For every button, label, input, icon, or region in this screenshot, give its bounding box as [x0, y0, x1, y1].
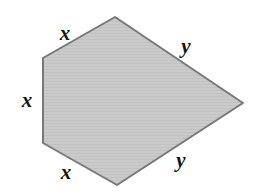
side-label-x-bottom-left: x [61, 162, 72, 183]
hexagon-shape [43, 17, 243, 185]
side-label-y-bottom-right: y [176, 150, 185, 171]
side-label-x-top-left: x [60, 23, 71, 44]
geometry-figure: x x x y y [0, 0, 259, 195]
side-label-x-left: x [22, 90, 33, 111]
side-label-y-top-right: y [181, 36, 190, 57]
hexagon-diagram [0, 0, 259, 195]
